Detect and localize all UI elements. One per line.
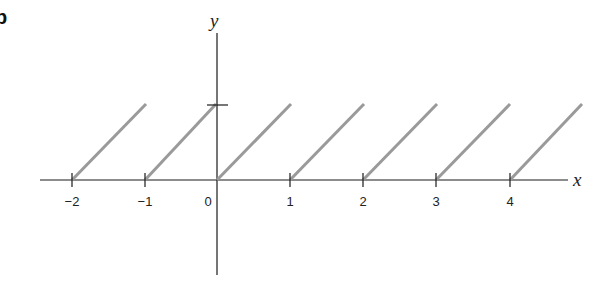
panel-label: b <box>0 6 7 28</box>
segment <box>290 104 364 180</box>
x-tick-label: 4 <box>506 194 513 209</box>
sawtooth-chart: b x y −2 −1 0 1 2 3 4 <box>0 0 615 298</box>
segment <box>436 104 510 180</box>
x-tick-label: 0 <box>204 194 211 209</box>
x-tick-label: −1 <box>138 194 153 209</box>
x-axis-label: x <box>572 169 582 190</box>
segment <box>363 104 437 180</box>
x-tick-label: 2 <box>359 194 366 209</box>
segment <box>145 104 216 180</box>
x-tick-label: 1 <box>286 194 293 209</box>
segment <box>217 104 291 180</box>
sawtooth-series <box>72 104 582 180</box>
y-axis-label: y <box>208 10 219 31</box>
segment <box>72 104 146 180</box>
segment <box>510 104 582 180</box>
x-tick-labels: −2 −1 0 1 2 3 4 <box>65 194 514 209</box>
x-tick-label: 3 <box>432 194 439 209</box>
x-tick-label: −2 <box>65 194 80 209</box>
